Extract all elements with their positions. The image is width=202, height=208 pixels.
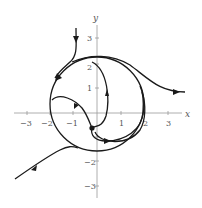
arrow-icon (104, 138, 111, 144)
x-tick-label: 3 (166, 119, 171, 128)
axes (14, 25, 182, 198)
arrow-icon (73, 36, 79, 43)
trajectory-bottom-left (15, 147, 78, 179)
phase-portrait-figure: −3 −2 −1 1 2 3 3 2 1 −2 −3 x y (0, 0, 202, 208)
arrow-icon (105, 89, 109, 96)
trajectories (15, 28, 185, 179)
trajectory-inner-right (92, 86, 144, 141)
arrow-icon (173, 89, 180, 95)
y-tick-label: 3 (87, 34, 92, 43)
trajectory-inner-right-2 (95, 92, 145, 142)
x-tick-label: 1 (119, 119, 124, 128)
y-axis-label: y (92, 13, 99, 23)
y-tick-label: 2 (87, 63, 92, 72)
x-axis-label: x (185, 109, 190, 119)
y-tick-label: −2 (84, 158, 96, 167)
x-tick-label: −1 (66, 119, 78, 128)
trajectory-top-left (55, 28, 76, 78)
x-tick-label: −3 (20, 119, 32, 128)
y-tick-label: −3 (84, 182, 96, 191)
x-tick-label: −2 (41, 119, 53, 128)
y-tick-label: 1 (87, 84, 92, 93)
equilibrium-point (89, 125, 94, 130)
